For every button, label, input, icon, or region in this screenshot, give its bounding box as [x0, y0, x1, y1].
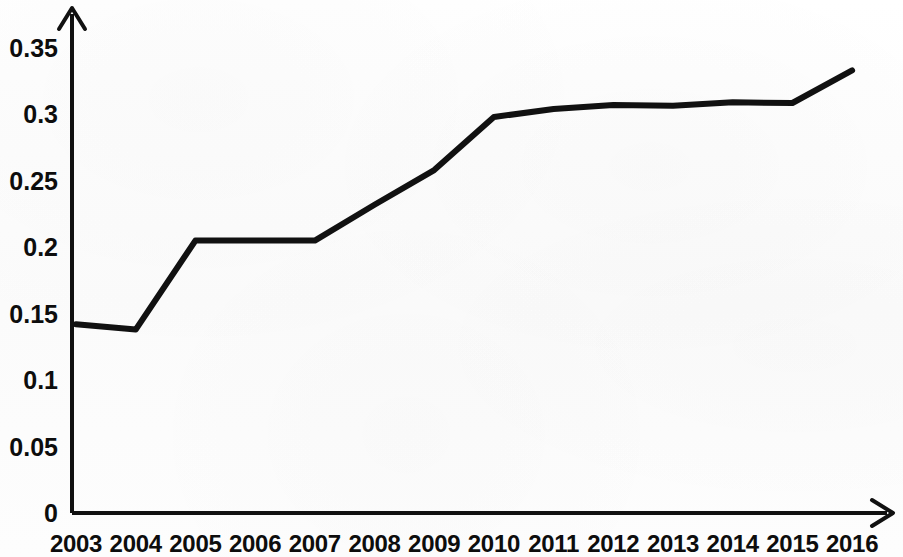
x-axis-tick-label: 2011	[528, 530, 579, 557]
x-axis-tick-label: 2008	[348, 530, 400, 557]
y-axis-tick-label: 0.1	[23, 366, 58, 395]
y-axis-tick-label: 0.05	[9, 432, 58, 461]
x-axis-tick-label: 2010	[468, 530, 520, 557]
x-axis-tick-label: 2014	[707, 530, 759, 557]
y-axis-tick-label: 0.35	[9, 33, 58, 62]
x-axis-tick-label: 2016	[826, 530, 878, 557]
x-axis-tick-label: 2005	[169, 530, 221, 557]
x-axis-tick-label: 2006	[229, 530, 281, 557]
x-axis-tick-label: 2012	[587, 530, 639, 557]
x-axis-tick-label: 2015	[766, 530, 818, 557]
y-axis-tick-label: 0.3	[23, 100, 58, 129]
x-axis-tick-label: 2013	[647, 530, 699, 557]
data-series-line	[76, 70, 852, 329]
chart-plot-area	[0, 0, 903, 557]
x-axis-tick-label: 2004	[110, 530, 162, 557]
y-axis-tick-label: 0.2	[23, 233, 58, 262]
y-axis-tick-label: 0.25	[9, 166, 58, 195]
y-axis-tick-label: 0.15	[9, 299, 58, 328]
x-axis-tick-label: 2003	[50, 530, 102, 557]
x-axis-tick-label: 2007	[289, 530, 341, 557]
y-axis-tick-label: 0	[44, 499, 58, 528]
line-chart-figure: 00.050.10.150.20.250.30.35 2003200420052…	[0, 0, 903, 557]
x-axis-tick-label: 2009	[408, 530, 460, 557]
